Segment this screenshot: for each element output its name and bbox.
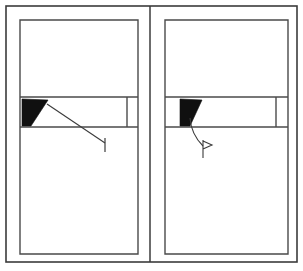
paper-background [0,0,303,271]
window-elevation-drawing: Two-panel window elevation detail Line d… [0,0,303,271]
figure-root: Two-panel window elevation detail Line d… [0,0,303,271]
